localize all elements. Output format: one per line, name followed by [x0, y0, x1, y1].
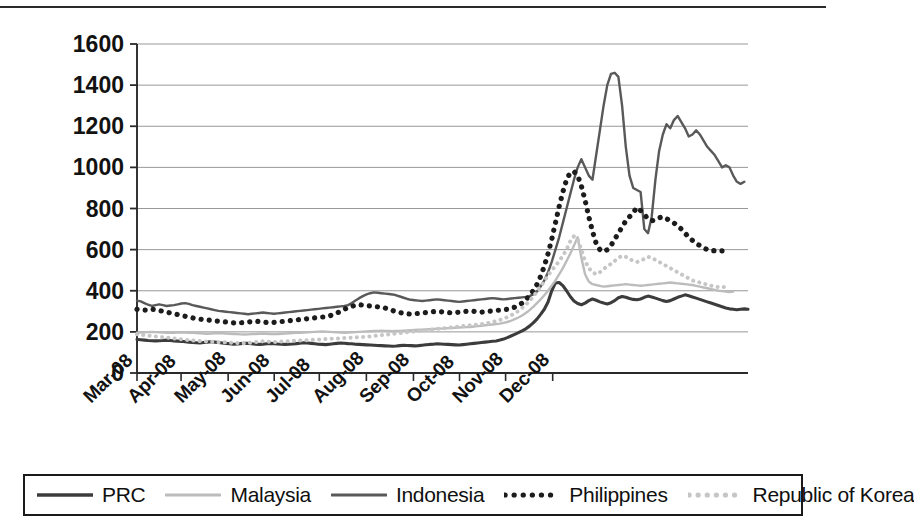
legend-item-prc[interactable]: PRC	[37, 483, 165, 507]
plot-area: 02004006008001000120014001600	[0, 0, 826, 400]
plot-svg: 02004006008001000120014001600	[0, 0, 826, 400]
series-line-prc	[137, 283, 748, 347]
y-axis-tick-label: 600	[86, 237, 124, 263]
legend-label: Republic of Korea	[753, 483, 914, 507]
y-axis-tick-label: 1600	[73, 31, 124, 57]
legend-swatch-solid-thick-dark	[37, 488, 93, 502]
legend-item-malaysia[interactable]: Malaysia	[165, 483, 330, 507]
legend-swatch-solid-light	[165, 488, 221, 502]
legend-item-philippines[interactable]: Philippines	[504, 483, 687, 507]
legend-swatch-dotted-light	[688, 488, 744, 502]
chart-legend: PRCMalaysiaIndonesiaPhilippinesRepublic …	[23, 474, 803, 516]
legend-swatch-solid-medium	[331, 488, 387, 502]
series-line-indonesia	[137, 73, 744, 314]
series-line-republic-of-korea	[137, 236, 726, 343]
y-axis-tick-label: 800	[86, 196, 124, 222]
y-axis-tick-label: 1400	[73, 72, 124, 98]
legend-item-indonesia[interactable]: Indonesia	[331, 483, 504, 507]
legend-label: Malaysia	[230, 483, 310, 507]
legend-item-republic-of-korea[interactable]: Republic of Korea	[688, 483, 914, 507]
x-axis-tick-labels: Mar-08Apr-08May-08Jun-08Jul-08Aug-08Sep-…	[0, 378, 826, 470]
legend-label: Philippines	[569, 483, 667, 507]
y-axis-tick-label: 1000	[73, 154, 124, 180]
y-axis-tick-label: 1200	[73, 113, 124, 139]
legend-swatch-dotted-dark	[504, 488, 560, 502]
legend-label: PRC	[102, 483, 145, 507]
y-axis-tick-label: 200	[86, 319, 124, 345]
legend-label: Indonesia	[396, 483, 484, 507]
y-axis-tick-label: 400	[86, 278, 124, 304]
